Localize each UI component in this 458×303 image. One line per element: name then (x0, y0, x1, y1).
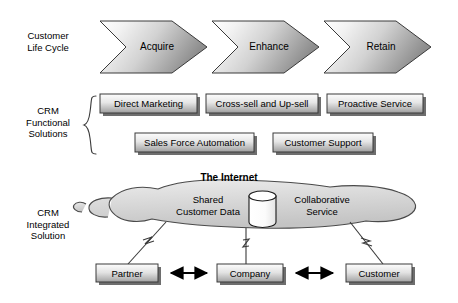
lifecycle-stage-label-enhance: Enhance (238, 41, 300, 52)
cloud-link-partner (128, 222, 166, 264)
cloud-label-shared-customer-data: Shared Customer Data (168, 194, 248, 217)
row-label-crm-functional-solutions: CRM Functional Solutions (6, 105, 90, 140)
functional-box-label-sales-force-automation: Sales Force Automation (135, 137, 254, 148)
row-label-crm-integrated-solution: CRM Integrated Solution (6, 207, 90, 242)
integrated-node-label-company: Company (217, 268, 283, 279)
internet-cloud-title: The Internet (0, 172, 458, 183)
cloud-label-collaborative-service: Collaborative Service (280, 194, 364, 217)
functional-box-label-proactive-service: Proactive Service (327, 98, 423, 109)
functional-box-label-cross-sell-up-sell: Cross-sell and Up-sell (206, 98, 318, 109)
shared-database-icon (249, 191, 276, 228)
functional-box-label-direct-marketing: Direct Marketing (100, 98, 197, 109)
lifecycle-stage-label-retain: Retain (350, 41, 412, 52)
functional-box-label-customer-support: Customer Support (273, 137, 373, 148)
cloud-link-customer (350, 222, 383, 264)
row-label-customer-life-cycle: Customer Life Cycle (6, 30, 90, 53)
cloud-link-company (243, 228, 249, 264)
integrated-node-label-customer: Customer (346, 268, 412, 279)
lifecycle-stage-label-acquire: Acquire (126, 41, 188, 52)
integrated-node-label-partner: Partner (96, 268, 158, 279)
